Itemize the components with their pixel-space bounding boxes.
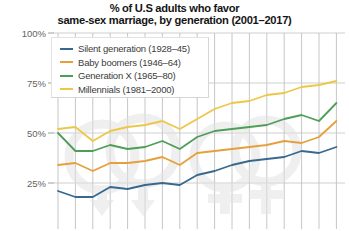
- y-axis-label: 100%: [22, 28, 47, 39]
- double-venus-symbol-icon: [194, 120, 297, 214]
- legend-swatch-icon: [60, 61, 73, 63]
- y-axis: 100%75%50%25%0%: [22, 28, 54, 231]
- legend-item: Millennials (1981–2000): [60, 83, 208, 97]
- legend-label: Silent generation (1928–45): [78, 42, 190, 55]
- legend-item: Baby boomers (1946–64): [60, 56, 208, 70]
- legend-label: Millennials (1981–2000): [78, 83, 174, 96]
- plot-area: 100%75%50%25%0%: [0, 0, 349, 230]
- legend-swatch-icon: [60, 48, 73, 50]
- legend: Silent generation (1928–45)Baby boomers …: [51, 37, 209, 98]
- y-axis-label: 50%: [27, 128, 47, 139]
- legend-label: Generation X (1965–80): [78, 69, 176, 82]
- legend-swatch-icon: [60, 88, 73, 90]
- legend-item: Silent generation (1928–45): [60, 42, 208, 56]
- y-axis-label: 75%: [27, 78, 47, 89]
- legend-swatch-icon: [60, 75, 73, 77]
- legend-label: Baby boomers (1946–64): [78, 56, 181, 69]
- y-axis-label: 0%: [32, 228, 46, 231]
- legend-item: Generation X (1965–80): [60, 69, 208, 83]
- chart-card: { "title": { "line1": "% of U.S adults w…: [0, 0, 349, 230]
- y-axis-label: 25%: [27, 178, 47, 189]
